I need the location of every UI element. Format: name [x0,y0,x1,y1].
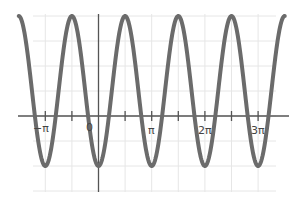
tick-label-neg-pi: −π [33,122,49,135]
tick-label-zero: 0 [86,121,93,134]
tick-label-two-pi: 2π [198,124,212,137]
tick-label-three-pi: 3π [251,124,265,137]
cosine-graph: −π 0 π 2π 3π [0,0,302,204]
tick-label-pi: π [148,124,155,137]
tick-labels: −π 0 π 2π 3π [33,121,265,137]
